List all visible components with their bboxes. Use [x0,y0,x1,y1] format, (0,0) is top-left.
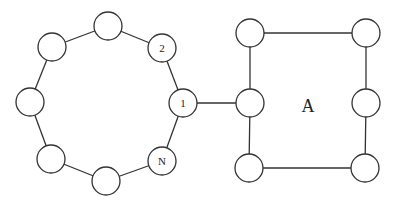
node-circle [92,167,120,195]
graph-node-s_ml [236,89,264,117]
node-circle [236,19,264,47]
node-circle [235,154,263,182]
node-label: N [158,155,166,167]
graph-node-s_tr [352,19,380,47]
graph-node-r5 [16,88,44,116]
graph-node-s_mr [352,89,380,117]
node-circle [352,19,380,47]
node-circle [236,89,264,117]
graph-node-rN: N [148,147,176,175]
graph-node-r2: 2 [148,34,176,62]
edges-group [30,26,366,181]
node-circle [38,33,66,61]
graph-node-r6 [37,145,65,173]
node-circle [94,12,122,40]
graph-node-s_tl [236,19,264,47]
node-circle [351,154,379,182]
node-label: 1 [180,97,186,109]
ring-square-graph-diagram: 12N A [0,0,396,202]
node-circle [352,89,380,117]
square-region-label: A [302,96,315,116]
graph-node-r3 [94,12,122,40]
node-circle [16,88,44,116]
graph-node-s_bl [235,154,263,182]
graph-node-r4 [38,33,66,61]
graph-node-r1: 1 [169,89,197,117]
node-circle [37,145,65,173]
node-label: 2 [159,42,165,54]
graph-node-r7 [92,167,120,195]
graph-node-s_br [351,154,379,182]
